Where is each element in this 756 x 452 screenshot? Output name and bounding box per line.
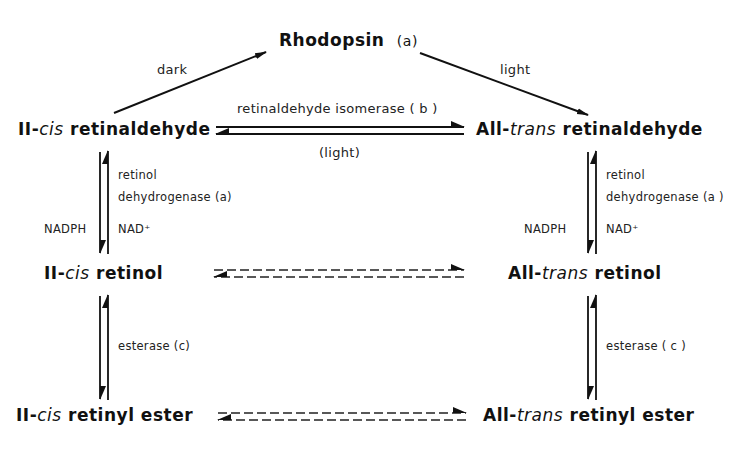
label-left-dehydrogenase: dehydrogenase (a) xyxy=(118,190,232,204)
label-right-retinol: retinol xyxy=(606,168,645,182)
isomer-italic: cis xyxy=(39,119,63,139)
label-right-dehydrogenase: dehydrogenase (a ) xyxy=(606,190,724,204)
compound-name: retinol xyxy=(90,263,163,283)
compound-name: retinyl ester xyxy=(563,405,694,425)
node-all-trans-retinaldehyde: All-trans retinaldehyde xyxy=(476,119,703,139)
node-11-cis-retinyl-ester: II-cis retinyl ester xyxy=(16,405,193,425)
label-right-esterase: esterase ( c ) xyxy=(606,339,686,353)
label-left-esterase: esterase (c) xyxy=(118,339,190,353)
prefix: II- xyxy=(16,405,37,425)
compound-name: retinyl ester xyxy=(62,405,193,425)
label-left-nadph: NADPH xyxy=(44,222,86,236)
label-light-reverse: (light) xyxy=(319,145,360,160)
prefix: II- xyxy=(18,119,39,139)
prefix: II- xyxy=(44,263,65,283)
node-11-cis-retinol: II-cis retinol xyxy=(44,263,163,283)
prefix: All- xyxy=(483,405,517,425)
node-rhodopsin: Rhodopsin (a) xyxy=(279,30,418,50)
isomer-italic: trans xyxy=(542,263,588,283)
label-isomerase: retinaldehyde isomerase ( b ) xyxy=(237,101,438,116)
node-11-cis-retinaldehyde: II-cis retinaldehyde xyxy=(18,119,210,139)
prefix: All- xyxy=(476,119,510,139)
label-right-nadph: NADPH xyxy=(524,222,566,236)
isomer-italic: cis xyxy=(37,405,61,425)
rhodopsin-label: Rhodopsin xyxy=(279,30,384,50)
prefix: All- xyxy=(508,263,542,283)
isomer-italic: cis xyxy=(65,263,89,283)
isomer-italic: trans xyxy=(517,405,563,425)
isomer-italic: trans xyxy=(510,119,556,139)
label-right-nad-plus: NAD⁺ xyxy=(606,222,639,236)
compound-name: retinol xyxy=(588,263,661,283)
compound-name: retinaldehyde xyxy=(556,119,703,139)
visual-cycle-diagram: Rhodopsin (a) II-cis retinaldehyde All-t… xyxy=(0,0,756,452)
label-dark: dark xyxy=(157,62,187,77)
label-light: light xyxy=(500,62,530,77)
label-left-nad-plus: NAD⁺ xyxy=(118,222,151,236)
label-left-retinol: retinol xyxy=(118,168,157,182)
node-all-trans-retinol: All-trans retinol xyxy=(508,263,662,283)
rhodopsin-enzyme-tag: (a) xyxy=(397,33,418,49)
arrows-layer xyxy=(0,0,756,452)
compound-name: retinaldehyde xyxy=(64,119,211,139)
node-all-trans-retinyl-ester: All-trans retinyl ester xyxy=(483,405,695,425)
